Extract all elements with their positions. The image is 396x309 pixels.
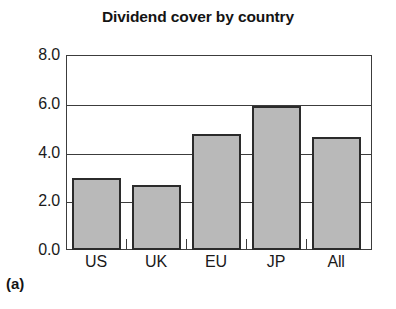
bar-uk[interactable] — [132, 185, 181, 250]
x-tick-label-us: US — [85, 253, 107, 271]
x-tick-label-all: All — [327, 253, 344, 271]
bar-jp[interactable] — [252, 106, 301, 250]
x-tick-label-uk: UK — [145, 253, 167, 271]
x-tick-4 — [306, 239, 307, 250]
bar-all[interactable] — [312, 137, 361, 250]
bars-layer — [66, 55, 372, 250]
x-tick-2 — [186, 239, 187, 250]
x-tick-label-jp: JP — [267, 253, 285, 271]
x-tick-1 — [126, 239, 127, 250]
bar-us[interactable] — [72, 178, 121, 250]
y-tick-label-8: 8.0 — [2, 46, 60, 64]
bar-eu[interactable] — [192, 134, 241, 250]
x-tick-label-eu: EU — [205, 253, 227, 271]
panel-label: (a) — [6, 275, 24, 292]
y-axis: 8.0 6.0 4.0 2.0 0.0 — [0, 0, 60, 309]
figure-panel: Dividend cover by country 8.0 6.0 4.0 2.… — [0, 0, 396, 309]
y-tick-label-0: 0.0 — [2, 241, 60, 259]
x-axis: US UK EU JP All — [66, 253, 372, 281]
y-tick-label-6: 6.0 — [2, 95, 60, 113]
y-tick-label-2: 2.0 — [2, 192, 60, 210]
y-tick-label-4: 4.0 — [2, 144, 60, 162]
x-tick-3 — [246, 239, 247, 250]
